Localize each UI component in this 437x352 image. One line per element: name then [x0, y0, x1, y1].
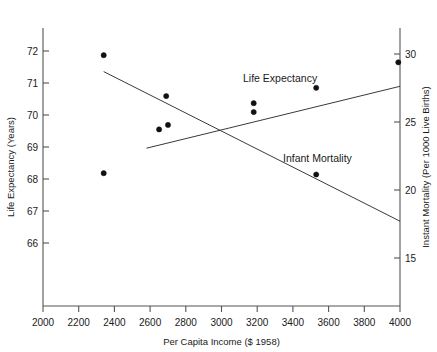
- ytick-label: 71: [27, 78, 39, 89]
- data-point: [314, 172, 319, 177]
- ytick-label: 69: [27, 142, 39, 153]
- data-point: [164, 94, 169, 99]
- xtick-label: 2400: [103, 317, 126, 328]
- y2tick-label: 30: [405, 49, 417, 60]
- x-axis-ticks: [43, 306, 400, 312]
- y2tick-label: 25: [405, 117, 417, 128]
- infant-mortality-annotation: Infant Mortality: [283, 152, 353, 164]
- y-axis-title: Life Expectancy (Years): [5, 117, 16, 217]
- ytick-label: 67: [27, 206, 39, 217]
- data-point: [314, 85, 319, 90]
- xtick-label: 3600: [317, 317, 340, 328]
- data-point: [165, 122, 170, 127]
- xtick-label: 3800: [353, 317, 376, 328]
- xtick-label: 2000: [32, 317, 55, 328]
- infant-mortality-trend-line: [104, 72, 400, 222]
- scatter-chart: 72 71 70 69 68 67 66 30 25 20 15 2000 22…: [0, 0, 437, 352]
- xtick-label: 2600: [139, 317, 162, 328]
- xtick-label: 3000: [210, 317, 233, 328]
- data-point: [101, 171, 106, 176]
- x-axis-tick-labels: 2000 2200 2400 2600 2800 3000 3200 3400 …: [32, 317, 412, 328]
- ytick-label: 72: [27, 46, 39, 57]
- left-axis-ticks: [43, 51, 49, 243]
- y2tick-label: 15: [405, 253, 417, 264]
- left-axis-tick-labels: 72 71 70 69 68 67 66: [27, 46, 39, 249]
- ytick-label: 66: [27, 238, 39, 249]
- y2-axis-title: Instant Mortality (Per 1000 Live Births): [420, 86, 431, 248]
- data-point: [157, 127, 162, 132]
- xtick-label: 2800: [175, 317, 198, 328]
- data-point: [396, 60, 401, 65]
- data-point: [101, 53, 106, 58]
- xtick-label: 2200: [68, 317, 91, 328]
- xtick-label: 3200: [246, 317, 269, 328]
- ytick-label: 68: [27, 174, 39, 185]
- xtick-label: 3400: [282, 317, 305, 328]
- right-axis-tick-labels: 30 25 20 15: [405, 49, 417, 264]
- ytick-label: 70: [27, 110, 39, 121]
- data-point: [251, 101, 256, 106]
- life-expectancy-annotation: Life Expectancy: [243, 72, 318, 84]
- xtick-label: 4000: [389, 317, 412, 328]
- x-axis-title: Per Capita Income ($ 1958): [163, 336, 280, 347]
- right-axis-ticks: [394, 54, 400, 258]
- life-expectancy-trend-line: [147, 86, 401, 148]
- data-point: [251, 110, 256, 115]
- y2tick-label: 20: [405, 185, 417, 196]
